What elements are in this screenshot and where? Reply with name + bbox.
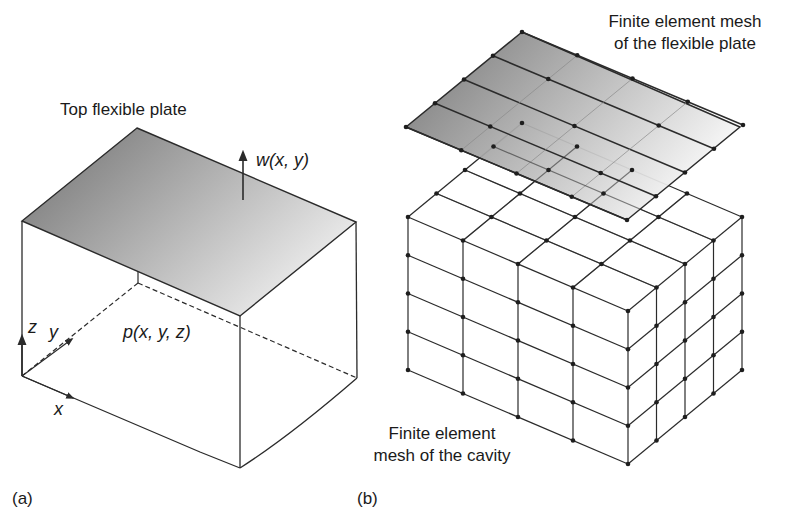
cavity-mesh-label-line1: Finite element (358, 423, 526, 445)
mesh-node (630, 76, 635, 81)
mesh-node (516, 262, 521, 267)
mesh-node (654, 362, 659, 367)
mesh-node (520, 121, 525, 126)
mesh-node (573, 215, 578, 220)
mesh-node (626, 423, 631, 428)
mesh-node (626, 309, 631, 314)
mesh-node (491, 144, 496, 149)
mesh-node (514, 171, 519, 176)
mesh-node (630, 168, 635, 173)
mesh-node (711, 315, 716, 320)
mesh-node (516, 376, 521, 381)
mesh-node (601, 191, 606, 196)
mesh-node (575, 144, 580, 149)
mesh-node (516, 338, 521, 343)
mesh-node (406, 253, 411, 258)
mesh-node (599, 262, 604, 267)
mesh-node (546, 77, 551, 82)
mesh-node (683, 300, 688, 305)
y-axis-arrow-icon (22, 339, 72, 376)
mesh-node (711, 391, 716, 396)
mesh-node (406, 368, 411, 373)
plate-mesh-label-line1: Finite element mesh (590, 11, 780, 33)
mesh-node (683, 338, 688, 343)
mesh-node (628, 238, 633, 243)
panel-a-label: (a) (12, 489, 33, 509)
mesh-node (488, 124, 493, 129)
pressure-label: p(x, y, z) (123, 322, 191, 342)
hidden-edge (22, 283, 138, 376)
mesh-node (654, 438, 659, 443)
plate-label: Top flexible plate (60, 100, 187, 120)
x-axis-label: x (54, 399, 63, 419)
mesh-node (459, 148, 464, 153)
box-edge (356, 222, 357, 378)
mesh-node (654, 323, 659, 328)
mesh-node (571, 438, 576, 443)
cavity-mesh-label-line2: mesh of the cavity (358, 445, 526, 467)
mesh-node (463, 168, 468, 173)
mesh-node (683, 376, 688, 381)
mesh-node (598, 171, 603, 176)
mesh-node (740, 291, 745, 296)
mesh-node (740, 368, 745, 373)
panel-b-fem-mesh (404, 30, 746, 467)
displacement-label: w(x, y) (256, 150, 309, 170)
plate-mesh-label-line2: of the flexible plate (590, 33, 780, 55)
mesh-node (546, 168, 551, 173)
mesh-node (575, 53, 580, 58)
mesh-node (406, 215, 411, 220)
mesh-node (461, 315, 466, 320)
mesh-node (571, 400, 576, 405)
cavity-mesh-label: Finite element mesh of the cavity (358, 423, 526, 467)
y-axis-label: y (49, 322, 58, 342)
mesh-node (740, 215, 745, 220)
panel-b-label: (b) (357, 489, 378, 509)
mesh-node (711, 238, 716, 243)
mesh-node (626, 462, 631, 467)
mesh-node (571, 323, 576, 328)
mesh-node (626, 385, 631, 390)
mesh-node (569, 194, 574, 199)
x-axis-arrow-icon (22, 376, 73, 398)
mesh-node (461, 238, 466, 243)
z-axis-label: z (28, 317, 37, 337)
mesh-node (461, 353, 466, 358)
mesh-node (544, 238, 549, 243)
mesh-node (740, 329, 745, 334)
mesh-node (654, 194, 659, 199)
mesh-node (434, 191, 439, 196)
mesh-node (520, 30, 525, 35)
mesh-node (461, 391, 466, 396)
mesh-node (433, 101, 438, 106)
mesh-node (741, 123, 746, 128)
panel-a-cavity-box (22, 128, 357, 468)
mesh-node (656, 215, 661, 220)
mesh-node (491, 53, 496, 58)
mesh-node (625, 218, 630, 223)
mesh-node (712, 146, 717, 151)
mesh-node (626, 347, 631, 352)
mesh-node (461, 276, 466, 281)
mesh-node (406, 329, 411, 334)
mesh-node (654, 400, 659, 405)
mesh-node (462, 77, 467, 82)
mesh-node (571, 362, 576, 367)
mesh-node (656, 123, 661, 128)
mesh-node (683, 262, 688, 267)
mesh-node (683, 415, 688, 420)
mesh-node (406, 291, 411, 296)
mesh-node (518, 191, 523, 196)
mesh-node (711, 276, 716, 281)
mesh-node (685, 99, 690, 104)
mesh-node (489, 215, 494, 220)
mesh-node (516, 415, 521, 420)
mesh-node (516, 300, 521, 305)
mesh-node (572, 124, 577, 129)
box-edge (240, 378, 357, 468)
mesh-node (711, 353, 716, 358)
mesh-node (685, 191, 690, 196)
plate-mesh-label: Finite element mesh of the flexible plat… (590, 11, 780, 55)
mesh-node (683, 170, 688, 175)
mesh-node (740, 253, 745, 258)
